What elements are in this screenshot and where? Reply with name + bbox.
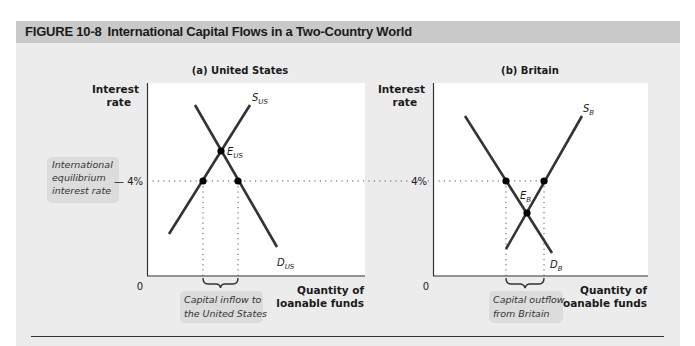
intl-rate-label-2: equilibrium <box>52 172 106 183</box>
britain-y-label-1: Interest <box>378 83 425 95</box>
us-y-tick-4pct: — 4% <box>114 176 143 187</box>
us-y-label-1: Interest <box>92 83 139 95</box>
britain-outflow-brace <box>506 278 544 288</box>
britain-y-tick-4pct: 4% <box>411 176 427 187</box>
us-equilibrium-point <box>217 147 224 154</box>
us-plot-area <box>148 83 365 276</box>
intl-rate-label-1: International <box>52 159 113 170</box>
us-inflow-brace <box>203 278 238 288</box>
britain-outflow-label-2: from Britain <box>493 308 550 319</box>
britain-x-label-2: loanable funds <box>559 297 647 309</box>
britain-origin: 0 <box>423 281 429 292</box>
us-y-label-2: rate <box>107 96 131 108</box>
us-inflow-label-2: the United States <box>184 308 267 319</box>
charts-canvas: (a) United States (b) Britain Interest r… <box>0 0 695 346</box>
britain-equilibrium-point <box>523 209 530 216</box>
intl-rate-label-3: interest rate <box>52 185 111 196</box>
us-x-label-2: loanable funds <box>276 297 364 309</box>
us-inflow-label-1: Capital inflow to <box>184 294 261 305</box>
britain-y-label-2: rate <box>393 96 417 108</box>
bottom-rule <box>31 336 664 337</box>
britain-outflow-label-1: Capital outflow <box>493 294 565 305</box>
britain-demand-at-4pct <box>502 177 509 184</box>
us-demand-at-4pct <box>234 177 241 184</box>
us-panel-title: (a) United States <box>192 65 289 76</box>
us-x-label-1: Quantity of <box>297 284 364 296</box>
us-supply-at-4pct <box>199 177 206 184</box>
britain-supply-at-4pct <box>540 177 547 184</box>
us-origin: 0 <box>137 281 143 292</box>
britain-plot-area <box>433 83 648 276</box>
britain-panel-title: (b) Britain <box>501 65 559 76</box>
britain-x-label-1: Quantity of <box>580 284 647 296</box>
